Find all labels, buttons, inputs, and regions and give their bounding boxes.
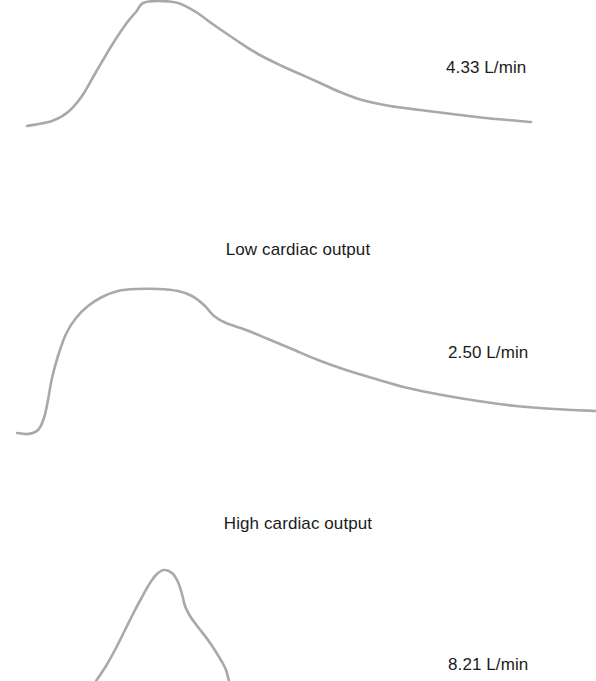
value-label-normal-cardiac-output: 4.33 L/min [446, 58, 526, 78]
heading-low-cardiac-output: Low cardiac output [0, 240, 596, 260]
cardiac-output-curves [0, 0, 596, 681]
value-label-low-cardiac-output: 2.50 L/min [448, 343, 528, 363]
curve-high-cardiac-output [96, 570, 229, 681]
value-label-high-cardiac-output: 8.21 L/min [448, 655, 528, 675]
cardiac-output-figure: 4.33 L/min Low cardiac output 2.50 L/min… [0, 0, 596, 681]
heading-high-cardiac-output: High cardiac output [0, 514, 596, 534]
